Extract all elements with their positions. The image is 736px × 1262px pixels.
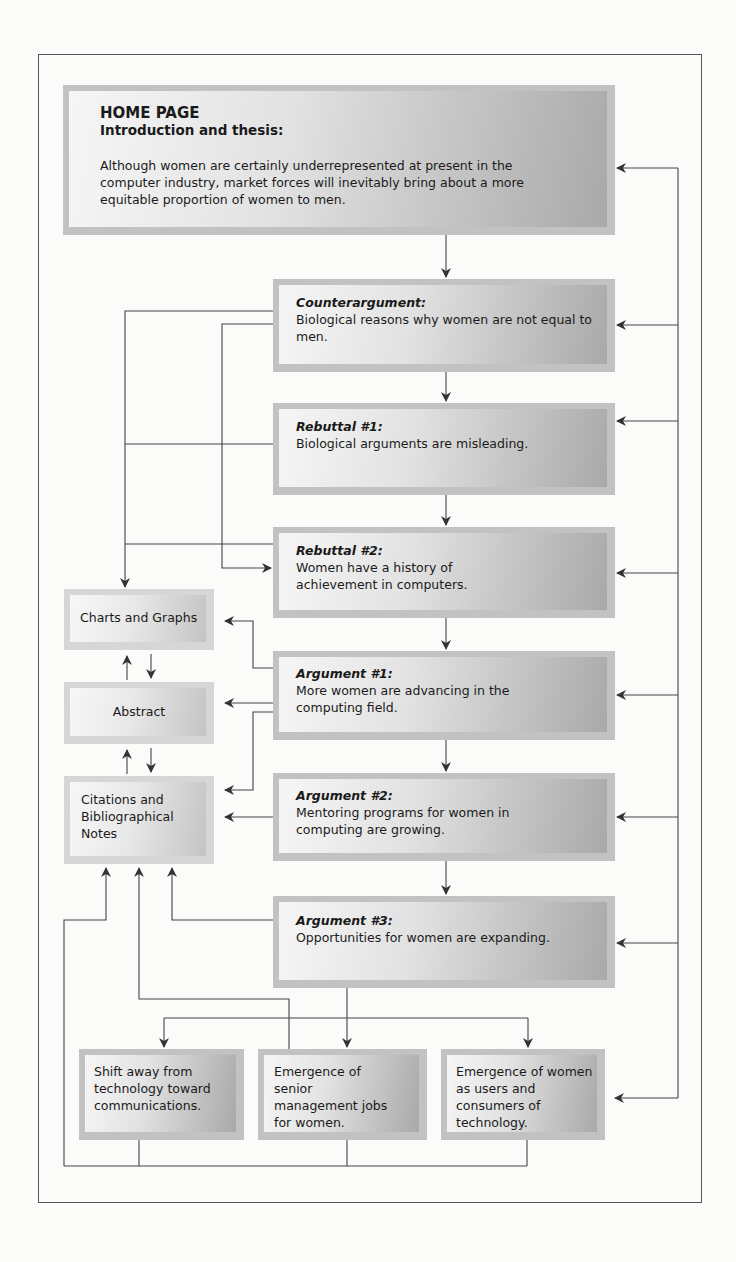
connector-lines [0,0,736,1262]
